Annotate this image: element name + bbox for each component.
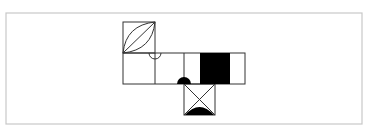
filled-half-ellipse-shape [185, 107, 214, 115]
diagram-canvas [0, 0, 368, 131]
filled-semicircle-shape [177, 77, 191, 84]
top-face [123, 22, 155, 53]
black-rectangle-shape [200, 53, 230, 84]
